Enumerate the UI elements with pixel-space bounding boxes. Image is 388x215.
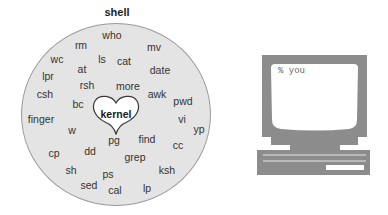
terminal-prompt: % you xyxy=(278,66,305,76)
computer-terminal-icon xyxy=(0,0,388,215)
